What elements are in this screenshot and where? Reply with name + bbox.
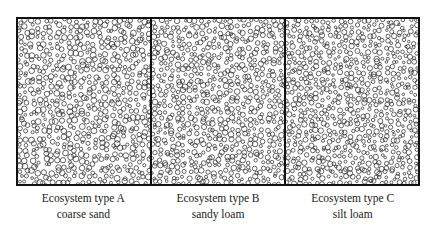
ecosystem-b-title: Ecosystem type B <box>151 190 286 206</box>
ecosystem-b-soil: sandy loam <box>151 206 286 222</box>
label-ecosystem-a: Ecosystem type A coarse sand <box>16 190 151 222</box>
ecosystem-c-soil: silt loam <box>285 206 420 222</box>
panel-ecosystem-c <box>284 19 418 184</box>
particle-texture <box>286 19 418 184</box>
panel-ecosystem-a <box>18 19 150 184</box>
panel-labels: Ecosystem type A coarse sand Ecosystem t… <box>16 190 420 222</box>
panel-ecosystem-b <box>150 19 284 184</box>
ecosystem-a-soil: coarse sand <box>16 206 151 222</box>
particle-texture <box>18 19 150 184</box>
label-ecosystem-c: Ecosystem type C silt loam <box>285 190 420 222</box>
label-ecosystem-b: Ecosystem type B sandy loam <box>151 190 286 222</box>
soil-texture-figure <box>16 17 420 186</box>
ecosystem-c-title: Ecosystem type C <box>285 190 420 206</box>
ecosystem-a-title: Ecosystem type A <box>16 190 151 206</box>
particle-texture <box>152 19 284 184</box>
